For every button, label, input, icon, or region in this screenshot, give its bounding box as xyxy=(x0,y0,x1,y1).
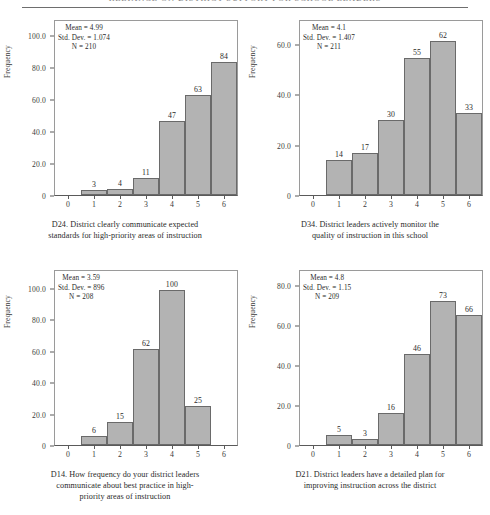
header-rule xyxy=(22,7,468,8)
chart-caption-d21: D21. District leaders have a detailed pl… xyxy=(265,470,475,492)
bar-value-label: 84 xyxy=(220,52,228,61)
y-tick-label: 0 xyxy=(42,192,50,201)
chart-panel-d21: Frequency020.040.060.080.001234565316467… xyxy=(245,264,490,514)
bar-value-label: 25 xyxy=(194,396,202,405)
caption-line: standards for high-priority areas of ins… xyxy=(20,231,230,242)
histogram-bar xyxy=(378,120,404,195)
y-tick-label: 60.0 xyxy=(277,322,295,331)
x-tick-mark xyxy=(417,445,418,449)
axis-area: 020.040.060.00123456141730556233 xyxy=(261,18,487,218)
bar-value-label: 3 xyxy=(363,429,367,438)
x-tick-label: 3 xyxy=(389,450,393,459)
histogram-bar xyxy=(404,354,430,445)
x-tick-label: 2 xyxy=(363,450,367,459)
stat-n: N = 208 xyxy=(58,293,104,303)
x-tick-label: 0 xyxy=(311,450,315,459)
x-tick-label: 1 xyxy=(92,450,96,459)
x-tick-label: 4 xyxy=(415,200,419,209)
x-tick-mark xyxy=(198,195,199,199)
histogram-bar xyxy=(352,153,378,195)
bar-value-label: 30 xyxy=(387,110,395,119)
y-tick-label: 60.0 xyxy=(32,96,50,105)
x-tick-label: 4 xyxy=(415,450,419,459)
x-tick-mark xyxy=(146,195,147,199)
y-tick-label: 80.0 xyxy=(32,64,50,73)
y-axis-label: Frequency xyxy=(3,66,12,78)
x-tick-mark xyxy=(391,445,392,449)
histogram-bar xyxy=(107,189,133,195)
stat-std-dev: Std. Dev. = 1.074 xyxy=(58,34,110,44)
histogram-bar xyxy=(159,290,185,445)
y-tick-label: 0 xyxy=(42,442,50,451)
histogram-bar xyxy=(430,301,456,445)
stat-mean: Mean = 3.59 xyxy=(58,274,104,284)
bar-value-label: 16 xyxy=(387,403,395,412)
y-tick-label: 40.0 xyxy=(277,362,295,371)
x-tick-label: 0 xyxy=(66,200,70,209)
x-tick-mark xyxy=(339,445,340,449)
x-tick-label: 1 xyxy=(337,200,341,209)
x-tick-mark xyxy=(146,445,147,449)
caption-line: quality of instruction in this school xyxy=(265,231,475,242)
x-tick-mark xyxy=(469,445,470,449)
figure-grid: Frequency020.040.060.080.0100.0012345634… xyxy=(0,14,490,514)
bar-value-label: 6 xyxy=(92,426,96,435)
bar-value-label: 3 xyxy=(92,180,96,189)
histogram-bar xyxy=(456,315,482,446)
x-tick-mark xyxy=(469,195,470,199)
x-tick-mark xyxy=(68,445,69,449)
chart-panel-d14: Frequency020.040.060.080.0100.0012345661… xyxy=(0,264,245,514)
axis-area: 020.040.060.080.0100.001234566156210025 xyxy=(16,268,242,468)
x-tick-label: 2 xyxy=(118,450,122,459)
histogram-bar xyxy=(107,422,133,445)
histogram-bar xyxy=(81,436,107,445)
y-tick-label: 80.0 xyxy=(277,282,295,291)
plot-area-d24: Frequency020.040.060.080.0100.0012345634… xyxy=(0,18,245,223)
stats-annotation: Mean = 3.59Std. Dev. = 896N = 208 xyxy=(58,274,104,303)
axis-area: 020.040.060.080.0100.001234563411476384 xyxy=(16,18,242,218)
plot-area-d34: Frequency020.040.060.0012345614173055623… xyxy=(245,18,490,223)
caption-line: priority areas of instruction xyxy=(20,492,230,503)
bar-value-label: 66 xyxy=(465,305,473,314)
stat-n: N = 210 xyxy=(58,43,110,53)
histogram-bar xyxy=(185,95,211,195)
x-tick-mark xyxy=(94,195,95,199)
x-tick-mark xyxy=(313,445,314,449)
stat-n: N = 211 xyxy=(303,43,355,53)
x-tick-label: 3 xyxy=(144,450,148,459)
stat-std-dev: Std. Dev. = 1.407 xyxy=(303,34,355,44)
x-tick-label: 1 xyxy=(337,450,341,459)
bar-value-label: 17 xyxy=(361,143,369,152)
y-tick-label: 20.0 xyxy=(32,160,50,169)
histogram-bar xyxy=(326,435,352,445)
histogram-bar xyxy=(352,439,378,445)
x-tick-mark xyxy=(339,195,340,199)
y-tick-label: 0 xyxy=(287,442,295,451)
x-tick-label: 0 xyxy=(66,450,70,459)
bar-value-label: 14 xyxy=(335,150,343,159)
bar-value-label: 62 xyxy=(439,31,447,40)
page-header: RELIANCE ON DISTRICT SUPPORT FOR SCHOOL … xyxy=(0,0,490,12)
histogram-bar xyxy=(81,190,107,195)
x-tick-mark xyxy=(417,195,418,199)
caption-line: D21. District leaders have a detailed pl… xyxy=(265,470,475,481)
bar-value-label: 47 xyxy=(168,111,176,120)
y-tick-label: 20.0 xyxy=(32,410,50,419)
x-tick-mark xyxy=(198,445,199,449)
histogram-bar xyxy=(185,406,211,445)
histogram-bar xyxy=(326,160,352,195)
chart-caption-d24: D24. District clearly communicate expect… xyxy=(20,220,230,242)
bar-value-label: 63 xyxy=(194,85,202,94)
x-tick-mark xyxy=(391,195,392,199)
stat-mean: Mean = 4.99 xyxy=(58,24,110,34)
bar-value-label: 62 xyxy=(142,339,150,348)
caption-line: improving instruction across the distric… xyxy=(265,481,475,492)
x-tick-label: 5 xyxy=(441,450,445,459)
x-tick-mark xyxy=(68,195,69,199)
axis-area: 020.040.060.080.001234565316467366 xyxy=(261,268,487,468)
histogram-bar xyxy=(404,58,430,195)
chart-caption-d34: D34. District leaders actively monitor t… xyxy=(265,220,475,242)
x-tick-mark xyxy=(120,195,121,199)
x-tick-mark xyxy=(365,445,366,449)
x-tick-mark xyxy=(172,445,173,449)
